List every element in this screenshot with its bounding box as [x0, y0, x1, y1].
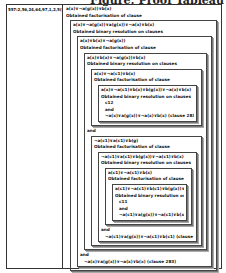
step-label: Obtained factorisation of clause: [80, 45, 209, 52]
step-label: Obtained factorisation of clause: [66, 13, 219, 20]
proof-box: a(x)∨¬a(c1)∨b(x) Obtained factorisation …: [91, 69, 202, 126]
proof-box: a(x)∨b(x)∨¬a(g(x))∨b(x) Obtained binary …: [84, 53, 207, 251]
and-label: and: [101, 107, 194, 114]
formula: ¬a(c1)∨a(c1)∨b(g): [94, 138, 199, 145]
proof-box: ¬a(c1)∨a(c1)∨b(g) Obtained factorisation…: [91, 136, 202, 247]
clause-ref: c11: [115, 199, 184, 206]
step-label: Obtained binary resolution on clauses: [101, 160, 194, 167]
formula: a(x)∨¬a(g(x))∨a(g(x))∨¬a(x)∨b(x): [73, 22, 214, 29]
formula: a(x)∨¬a(g(x))∨b(x): [66, 6, 219, 13]
and-label: and: [87, 128, 204, 135]
formula: a(c1)∨¬a(c1)∨b(x): [108, 170, 189, 177]
and-label: and: [80, 252, 209, 259]
formula: ¬a(x)∨a(g(x))∨¬a(x)∨b(x) (clause 283): [80, 259, 209, 266]
step-label: Obtained factorisation of clause: [108, 176, 189, 183]
step-label: Obtained binary resolution on clauses: [115, 193, 184, 200]
formula: ¬a(c1)∨a(g(x))∨¬a(c1)∨b(c1) (clause 283): [101, 234, 194, 241]
proof-cell: a(x)∨¬a(g(x))∨b(x) Obtained factorisatio…: [64, 5, 221, 268]
formula: ¬a(c1)∨a(c1)∨b(g(x))∨¬a(c1)∨b(x): [101, 154, 194, 161]
formula: a(x)∨¬a(c1)∨b(x)∨b(g(x))∨¬a(x)∨b(x): [101, 87, 194, 94]
clause-ref: c12: [101, 100, 194, 107]
step-label: Obtained factorisation of clause: [94, 77, 199, 84]
formula: a(c1)∨¬a(c1)∨b(c1)∨b(g(x))∨¬a(c1)∨b(x): [115, 186, 184, 193]
proof-table: 557:2,56,24,64,97,1,2,5(5) a(x)∨¬a(g(x))…: [6, 4, 222, 269]
step-label: Obtained binary resolution on clauses: [87, 61, 204, 68]
clause-id: 557:2,56,24,64,97,1,2,5(5): [7, 5, 62, 14]
proof-box: a(c1)∨¬a(c1)∨b(x) Obtained factorisation…: [105, 168, 192, 225]
proof-box: a(x)∨b(x)∨¬a(g(x)) Obtained factorisatio…: [77, 36, 212, 267]
step-label: Obtained binary resolution on clauses: [101, 94, 194, 101]
step-label: Obtained binary resolution on clauses: [73, 29, 214, 36]
formula: a(x)∨b(x)∨¬a(g(x)): [80, 38, 209, 45]
proof-box: ¬a(c1)∨a(c1)∨b(g(x))∨¬a(c1)∨b(x) Obtaine…: [98, 152, 197, 243]
formula: ¬a(x)∨a(g(x))∨¬a(x)∨b(x) (clause 283): [101, 113, 194, 120]
proof-box: a(x)∨¬a(c1)∨b(x)∨b(g(x))∨¬a(x)∨b(x) Obta…: [98, 85, 197, 122]
proof-box: a(c1)∨¬a(c1)∨b(c1)∨b(g(x))∨¬a(c1)∨b(x) O…: [112, 184, 187, 221]
formula: a(x)∨b(x)∨¬a(g(x))∨b(x): [87, 55, 204, 62]
formula: ¬a(c1)∨a(g(x))∨¬a(c1)∨b(x) (clause 283): [115, 212, 184, 219]
step-label: Obtained factorisation of clause: [94, 144, 199, 151]
left-cell: 557:2,56,24,64,97,1,2,5(5): [7, 5, 63, 268]
and-label: and: [101, 227, 194, 234]
proof-box: a(x)∨¬a(g(x))∨a(g(x))∨¬a(x)∨b(x) Obtaine…: [70, 20, 217, 271]
and-label: and: [115, 206, 184, 213]
formula: a(x)∨¬a(c1)∨b(x): [94, 71, 199, 78]
